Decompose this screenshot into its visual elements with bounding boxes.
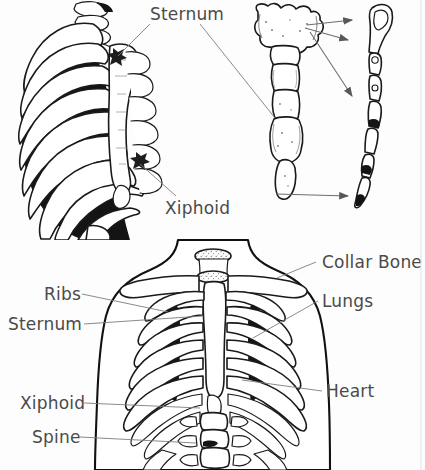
sternum-lateral-illustration: [355, 5, 393, 208]
label-ribs: Ribs: [44, 284, 81, 304]
label-collar-bone: Collar Bone: [322, 252, 422, 272]
arrow-body-to-lateral: [310, 32, 352, 96]
lumbar-spine: [178, 413, 251, 469]
sternum-anterior-illustration: [255, 4, 323, 200]
label-heart: Heart: [326, 381, 374, 401]
label-xiphoid-top: Xiphoid: [165, 198, 230, 218]
label-lungs: Lungs: [322, 291, 373, 311]
label-sternum-top: Sternum: [150, 4, 224, 24]
rib-cage-oblique-illustration: [19, 2, 162, 240]
torso-anterior-illustration: [95, 240, 330, 470]
label-xiphoid-bottom: Xiphoid: [20, 393, 85, 413]
leader-collar-bone: [277, 262, 316, 278]
sternum-anterior-in-torso: [203, 282, 226, 398]
label-sternum-bottom: Sternum: [8, 314, 82, 334]
xiphoid-marker-oblique: [113, 185, 130, 208]
label-spine: Spine: [32, 427, 81, 447]
cervical-spine: [195, 249, 231, 283]
anatomy-diagram: Sternum Xiphoid Collar Bone Ribs Lungs S…: [0, 0, 425, 470]
